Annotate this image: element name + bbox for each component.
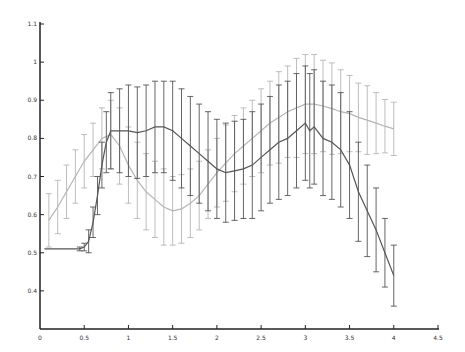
y-tick-label: 0.9 (27, 96, 37, 103)
x-tick-label: 2 (215, 334, 219, 341)
y-tick-label: 1.1 (27, 20, 37, 27)
x-tick-label: 0 (38, 334, 42, 341)
y-tick-label: 0.6 (27, 211, 37, 218)
line-chart: 00.511.522.533.544.5 0.40.50.60.70.80.91… (0, 0, 465, 352)
y-tick-label: 0.8 (27, 134, 37, 141)
x-tick-label: 1 (127, 334, 131, 341)
y-tick-label: 0.7 (27, 173, 37, 180)
series-line (49, 104, 394, 220)
x-tick-label: 3 (303, 334, 307, 341)
y-tick-label: 0.5 (27, 249, 37, 256)
x-tick-label: 1.5 (168, 334, 178, 341)
series-layer (44, 55, 396, 307)
x-ticks: 00.511.522.533.544.5 (38, 325, 443, 341)
x-tick-label: 0.5 (79, 334, 89, 341)
series-dark (44, 66, 396, 306)
x-tick-label: 4.5 (433, 334, 443, 341)
axes: 00.511.522.533.544.5 0.40.50.60.70.80.91… (27, 20, 442, 341)
x-tick-label: 3.5 (345, 334, 355, 341)
x-tick-label: 2.5 (256, 334, 266, 341)
y-ticks: 0.40.50.60.70.80.911.1 (27, 20, 44, 294)
y-tick-label: 1 (33, 58, 37, 65)
y-tick-label: 0.4 (27, 287, 37, 294)
x-tick-label: 4 (392, 334, 396, 341)
series-light (46, 55, 397, 248)
